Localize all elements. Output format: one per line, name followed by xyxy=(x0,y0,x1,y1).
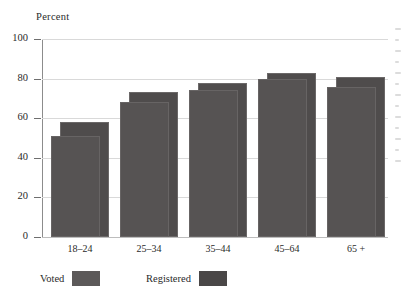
legend-swatch-voted xyxy=(72,271,100,286)
bar-voted-2 xyxy=(189,90,238,237)
y-tick-mark-60 xyxy=(34,118,41,119)
y-tick-mark-20 xyxy=(34,197,41,198)
y-axis-title: Percent xyxy=(36,11,70,22)
bar-voted-4 xyxy=(327,87,376,237)
y-tick-label-100: 100 xyxy=(0,32,28,43)
y-axis-line xyxy=(42,39,43,238)
legend-label-voted: Voted xyxy=(40,273,64,284)
legend-item-voted[interactable]: Voted xyxy=(40,271,100,286)
y-tick-label-60: 60 xyxy=(0,111,28,122)
bar-voted-0 xyxy=(51,136,100,237)
axis-baseline xyxy=(42,237,388,238)
y-tick-label-40: 40 xyxy=(0,151,28,162)
y-tick-mark-0 xyxy=(34,237,41,238)
x-tick-label-4: 65 + xyxy=(313,243,399,254)
legend-item-registered[interactable]: Registered xyxy=(146,271,227,286)
chart-figure: Percent 020406080100 18–2425–3435–4445–6… xyxy=(0,0,402,305)
bar-voted-3 xyxy=(258,79,307,237)
bar-voted-1 xyxy=(120,102,169,237)
page-edge-bleed-marks xyxy=(393,28,402,198)
y-tick-label-80: 80 xyxy=(0,72,28,83)
legend-swatch-registered xyxy=(199,271,227,286)
y-tick-mark-100 xyxy=(34,39,41,40)
gridline-100 xyxy=(42,39,388,40)
y-tick-mark-40 xyxy=(34,158,41,159)
y-tick-mark-80 xyxy=(34,79,41,80)
legend-label-registered: Registered xyxy=(146,273,191,284)
y-tick-label-20: 20 xyxy=(0,190,28,201)
y-tick-label-0: 0 xyxy=(0,230,28,241)
